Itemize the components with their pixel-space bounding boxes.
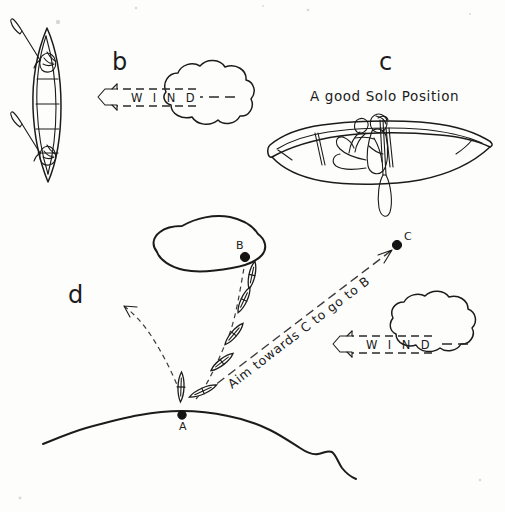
- wind-label-bottom: W I N D: [366, 338, 433, 352]
- diagram-page: b W I N D c A good Solo Position: [0, 0, 505, 512]
- shoreline: [43, 411, 356, 479]
- scan-artifacts: [19, 5, 482, 499]
- point-b-dot: [240, 252, 249, 261]
- diagram-canvas: b W I N D c A good Solo Position: [0, 0, 505, 512]
- panel-b-canoe-top-view: [11, 19, 61, 182]
- wind-arrow-bottom: W I N D: [333, 291, 475, 357]
- point-c-label: C: [404, 230, 412, 243]
- panel-c-solo-canoe: [268, 114, 492, 216]
- point-a-label: A: [179, 420, 187, 433]
- solo-position-caption: A good Solo Position: [310, 88, 459, 104]
- point-b-label: B: [236, 239, 244, 252]
- point-a-dot: [178, 411, 186, 419]
- panel-d-label: d: [68, 281, 83, 309]
- wind-label-top: W I N D: [131, 91, 198, 105]
- panel-b-label: b: [112, 48, 127, 76]
- drift-path: [124, 306, 180, 392]
- panel-c-label: c: [379, 48, 392, 76]
- aim-line: [206, 250, 392, 392]
- solo-paddler: [333, 114, 391, 216]
- point-c-dot: [392, 240, 401, 249]
- island-outline: [154, 216, 266, 271]
